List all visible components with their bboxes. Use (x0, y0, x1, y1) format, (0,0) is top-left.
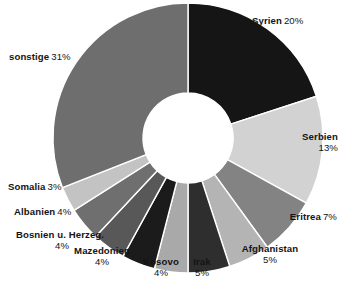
slice-label-somalia: Somalia3% (8, 181, 62, 192)
slice-label-irak-percent: 5% (183, 267, 221, 278)
slice-label-kosovo: Kosovo 4% (137, 256, 185, 279)
slice-label-albanien-name: Albanien (14, 206, 55, 217)
slice-label-bosnien: Bosnien u. Herzeg. 4% (8, 229, 112, 252)
slice-label-syrien: Syrien20% (252, 15, 303, 26)
slice-label-kosovo-name: Kosovo (137, 256, 185, 267)
slice-label-afghanistan-percent: 5% (231, 254, 309, 265)
slice-label-syrien-percent: 20% (284, 15, 304, 26)
slice-label-albanien-percent: 4% (57, 206, 71, 217)
slice-label-eritrea-percent: 7% (323, 211, 337, 222)
slice-label-syrien-name: Syrien (252, 15, 282, 26)
slice-label-mazedonien-percent: 4% (66, 256, 138, 267)
slice-label-kosovo-percent: 4% (137, 267, 185, 278)
slice-label-eritrea-name: Eritrea (290, 211, 321, 222)
slice-label-serbien-percent: 13% (302, 142, 338, 153)
slice-label-afghanistan-name: Afghanistan (231, 243, 309, 254)
slice-label-albanien: Albanien4% (14, 206, 71, 217)
slice-label-afghanistan: Afghanistan 5% (231, 243, 309, 266)
slice-label-somalia-percent: 3% (48, 181, 62, 192)
slice-label-irak: Irak 5% (183, 256, 221, 279)
slice-label-sonstige-name: sonstige (9, 51, 49, 62)
slice-label-sonstige: sonstige31% (9, 51, 71, 62)
slice-label-irak-name: Irak (183, 256, 221, 267)
slice-label-serbien-name: Serbien (302, 131, 338, 142)
slice-label-bosnien-name: Bosnien u. Herzeg. (8, 229, 112, 240)
slice-label-serbien: Serbien 13% (302, 131, 338, 154)
slice-label-sonstige-percent: 31% (51, 51, 71, 62)
donut-slice-sonstige[interactable] (53, 3, 188, 188)
chart-canvas: Syrien20% Serbien 13% Eritrea7% Afghanis… (0, 0, 341, 285)
slice-label-somalia-name: Somalia (8, 181, 46, 192)
slice-label-bosnien-percent: 4% (8, 240, 112, 251)
slice-label-eritrea: Eritrea7% (290, 211, 337, 222)
